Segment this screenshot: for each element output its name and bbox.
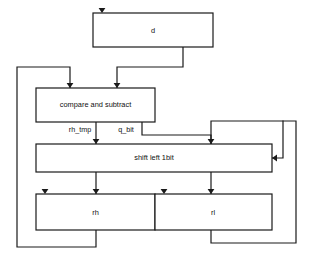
block-label-rh: rh	[92, 208, 99, 217]
connection-shift-right-side-loop	[272, 121, 283, 158]
arrow-into-shift-side-icon	[272, 155, 277, 162]
block-label-d: d	[151, 26, 155, 35]
arrow-into-d-icon	[99, 8, 106, 13]
wire-label-layer: rh_tmpq_bit	[69, 125, 134, 134]
arrow-into-rh-icon	[93, 189, 100, 194]
arrow-into-compare-right-icon	[114, 83, 121, 88]
block-diagram-canvas: dcompare and subtractshift left 1bitrhrl…	[0, 0, 309, 268]
connection-d-to-compare	[117, 47, 183, 88]
block-label-compare_and_subtract: compare and subtract	[60, 100, 131, 109]
arrow-marker-rh-corner-icon	[42, 189, 49, 194]
diagram-svg: dcompare and subtractshift left 1bitrhrl…	[0, 0, 309, 268]
connection-q_bit-to-shift	[142, 122, 211, 144]
arrow-into-shift-left-icon	[93, 139, 100, 144]
arrow-into-shift-right-icon	[208, 139, 215, 144]
block-label-shift_left_1bit: shift left 1bit	[134, 153, 173, 162]
wire-label-rh_tmp: rh_tmp	[69, 125, 91, 134]
wire-label-q_bit: q_bit	[118, 125, 134, 134]
block-label-rl: rl	[211, 208, 215, 217]
arrow-marker-rl-corner-icon	[161, 189, 168, 194]
arrow-into-compare-left-icon	[67, 83, 74, 88]
arrow-into-rl-icon	[208, 189, 215, 194]
